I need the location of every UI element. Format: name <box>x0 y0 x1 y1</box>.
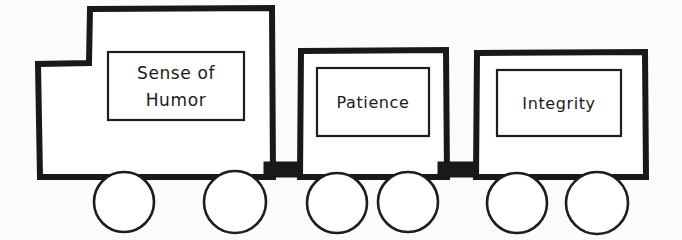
wheel <box>204 171 266 233</box>
train-sketch: Sense of Humor Patience Integrity <box>0 0 682 240</box>
locomotive-label-line-1: Sense of <box>137 63 215 83</box>
wheel <box>94 172 154 232</box>
diagram-canvas: Sense of Humor Patience Integrity <box>0 0 682 240</box>
car-integrity-label: Integrity <box>522 94 595 113</box>
wheel <box>307 173 367 233</box>
train-car-integrity[interactable]: Integrity <box>476 52 646 234</box>
car-patience-label: Patience <box>337 93 410 112</box>
wheel <box>378 172 438 232</box>
wheel <box>566 172 628 234</box>
wheel <box>487 173 547 233</box>
train-car-locomotive[interactable]: Sense of Humor <box>38 8 273 233</box>
train-car-patience[interactable]: Patience <box>300 50 447 233</box>
locomotive-label-line-2: Humor <box>146 90 207 110</box>
coupler-1 <box>264 162 302 177</box>
